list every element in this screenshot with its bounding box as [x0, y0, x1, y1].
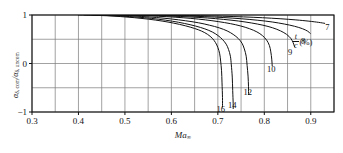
x-tick-label: 0.7	[212, 116, 223, 126]
figure-container: Ma∞ αδ, com/αδ, uncom t c (%) 0.30.40.50…	[0, 0, 343, 153]
curve-16	[78, 15, 222, 107]
curve-label-14: 14	[228, 100, 237, 110]
y-axis-title-numerator-subscript: δ, com	[14, 78, 20, 93]
legend-numerator: t	[294, 33, 298, 41]
x-tick-label: 0.3	[26, 116, 37, 126]
curve-14	[85, 15, 234, 109]
curve-label-12: 12	[243, 87, 252, 97]
x-axis-title-subscript: ∞	[187, 134, 191, 140]
x-tick-label: 0.5	[119, 116, 130, 126]
x-tick-label: 0.6	[166, 116, 177, 126]
curve-12	[92, 15, 248, 95]
y-tick-label: 1	[0, 10, 27, 20]
curve-label-9: 9	[288, 47, 292, 57]
x-axis-title-base: Ma	[175, 130, 187, 140]
chart-canvas	[0, 0, 343, 153]
curve-label-10: 10	[267, 64, 276, 74]
curve-label-7: 7	[325, 22, 329, 32]
legend-fraction: t c	[293, 33, 299, 50]
x-tick-label: 0.4	[73, 116, 84, 126]
y-tick-label: 0	[0, 59, 27, 69]
x-axis-title: Ma∞	[175, 130, 191, 140]
x-tick-label: 0.9	[305, 116, 316, 126]
x-tick-label: 0.8	[259, 116, 270, 126]
legend-denominator: c	[293, 42, 299, 50]
y-tick-label: −1	[0, 107, 27, 117]
curve-label-16: 16	[216, 104, 225, 114]
curve-label-8: 8	[301, 36, 305, 46]
